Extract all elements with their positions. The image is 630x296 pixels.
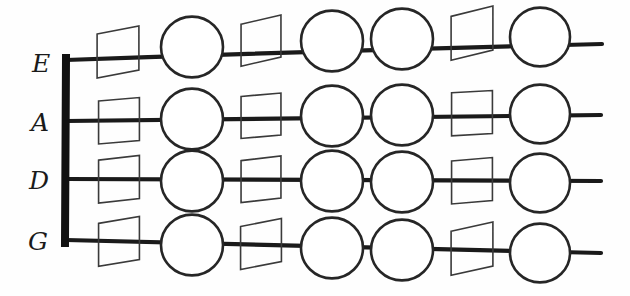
string-label-e: E	[31, 49, 50, 78]
nut-layer	[65, 58, 66, 243]
string-label-d: D	[28, 166, 49, 195]
node-circle[interactable]	[510, 85, 570, 144]
node-circle[interactable]	[161, 17, 223, 78]
node-square[interactable]	[97, 26, 139, 78]
diagram-canvas: EADG	[0, 0, 630, 296]
node-circle[interactable]	[161, 89, 223, 150]
string-labels-layer: EADG	[28, 49, 50, 256]
node-circle[interactable]	[301, 218, 363, 279]
node-circle[interactable]	[371, 9, 433, 70]
node-circle[interactable]	[301, 11, 363, 72]
node-circle[interactable]	[301, 86, 363, 147]
node-square[interactable]	[241, 93, 281, 138]
node-circle[interactable]	[510, 8, 570, 67]
node-circle[interactable]	[371, 220, 433, 281]
node-circle[interactable]	[510, 224, 570, 283]
nut-bar	[65, 58, 66, 243]
node-circle[interactable]	[161, 215, 223, 276]
node-circle[interactable]	[510, 154, 570, 213]
string-label-g: G	[28, 227, 48, 256]
node-square[interactable]	[452, 91, 493, 136]
node-circle[interactable]	[301, 151, 363, 212]
node-circle[interactable]	[371, 152, 433, 213]
node-circle[interactable]	[371, 85, 433, 146]
node-square[interactable]	[241, 15, 281, 66]
string-label-a: A	[29, 108, 49, 137]
node-square[interactable]	[451, 6, 493, 60]
node-circle[interactable]	[161, 151, 223, 212]
bass-fretboard-diagram: EADG	[0, 0, 630, 296]
